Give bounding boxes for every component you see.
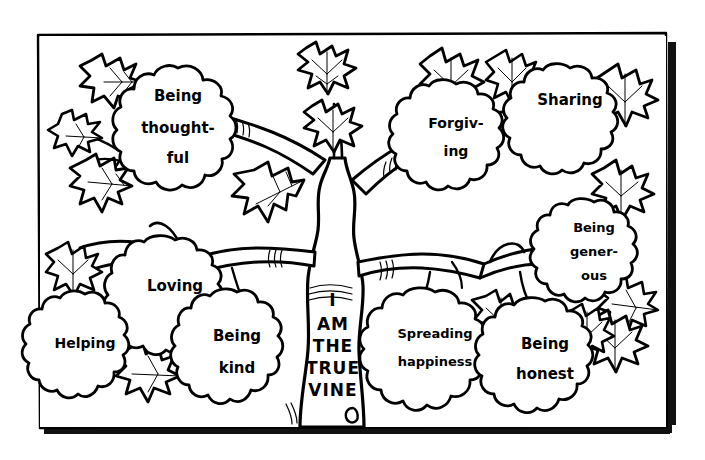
cluster-being-generous[interactable]: Being gener- ous <box>530 199 637 302</box>
cluster-label-being-kind-line2: kind <box>219 359 256 377</box>
cluster-helping[interactable]: Helping <box>22 291 129 398</box>
cluster-label-loving: Loving <box>147 277 203 295</box>
cluster-label-being-kind-line1: Being <box>213 327 261 345</box>
cluster-label-helping: Helping <box>55 335 116 351</box>
cluster-label-being-honest-line2: honest <box>516 365 574 383</box>
cluster-label-being-generous-line3: ous <box>581 268 607 283</box>
vine-drawing-canvas: Being thought- ful Forgiv- ing Sharing B… <box>0 0 705 460</box>
cluster-label-spreading-happiness-line2: happiness <box>398 354 473 369</box>
trunk-label-line-5: VINE <box>308 380 357 400</box>
trunk-label-line-4: TRUE <box>306 358 360 378</box>
vine-illustration: Being thought- ful Forgiv- ing Sharing B… <box>0 0 705 460</box>
cluster-label-being-generous-line2: gener- <box>570 244 618 259</box>
cluster-label-sharing: Sharing <box>537 91 603 109</box>
cluster-label-being-generous-line1: Being <box>573 220 615 235</box>
trunk-label-line-1: I <box>329 290 336 310</box>
trunk-label-line-3: THE <box>313 336 353 356</box>
cluster-label-being-thoughtful-line3: ful <box>167 149 189 167</box>
trunk-label-line-2: AM <box>317 314 349 334</box>
cluster-label-forgiving-line1: Forgiv- <box>428 115 483 131</box>
trunk-base-knob <box>346 408 358 422</box>
cluster-label-spreading-happiness-line1: Spreading <box>398 326 473 341</box>
cluster-label-being-honest-line1: Being <box>521 335 569 353</box>
cluster-label-being-thoughtful-line1: Being <box>154 87 202 105</box>
cluster-label-forgiving-line2: ing <box>444 143 469 159</box>
cluster-label-being-thoughtful-line2: thought- <box>141 119 215 137</box>
